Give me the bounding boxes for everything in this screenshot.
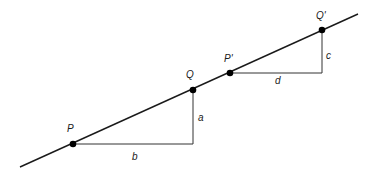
label-q-prime: Q' [316,11,326,21]
point-q-prime [319,27,326,34]
label-c: c [326,51,331,61]
label-p-prime: P' [224,54,233,64]
label-a: a [198,113,204,123]
label-p: P [67,124,74,134]
label-d: d [275,76,281,86]
point-p [70,141,77,148]
triangle-pq [73,90,193,144]
point-q [190,87,197,94]
slope-diagram [0,0,377,176]
label-b: b [132,152,138,162]
point-p-prime [227,70,234,77]
label-q: Q [186,70,194,80]
